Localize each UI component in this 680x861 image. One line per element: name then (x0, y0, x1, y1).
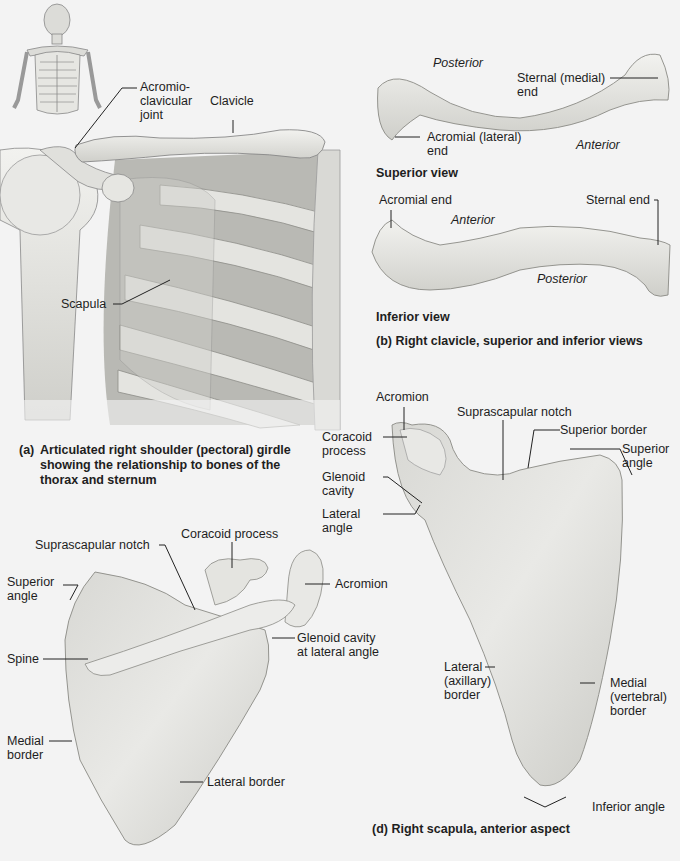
label-lateral-border-c: Lateral border (207, 775, 285, 789)
superior-view-title: Superior view (376, 166, 458, 180)
label-suprascapular-notch-c: Suprascapular notch (35, 538, 150, 552)
scapula-anterior-illustration (392, 423, 623, 786)
label-posterior-superior: Posterior (433, 56, 483, 70)
label-glenoid-cavity-d: Glenoid cavity (322, 470, 365, 498)
label-superior-border-d: Superior border (560, 423, 647, 437)
clavicle-inferior-view-illustration (372, 220, 670, 296)
caption-panel-d: (d) Right scapula, anterior aspect (372, 822, 570, 837)
label-sternal-medial-end: Sternal (medial) end (517, 71, 605, 99)
label-acromial-lateral-end: Acromial (lateral) end (427, 130, 521, 158)
label-clavicle: Clavicle (210, 94, 254, 108)
label-sternal-end: Sternal end (586, 193, 650, 207)
label-lateral-axillary-border-d: Lateral (axillary) border (444, 660, 491, 702)
label-medial-border-c: Medial border (7, 734, 44, 762)
label-coracoid-process-d: Coracoid process (322, 430, 372, 458)
scapula-posterior-illustration (65, 550, 323, 845)
label-lateral-angle-d: Lateral angle (322, 507, 360, 535)
label-spine-c: Spine (7, 652, 39, 666)
label-medial-vertebral-border-d: Medial (vertebral) border (610, 676, 667, 718)
label-acromion-c: Acromion (335, 577, 388, 591)
label-scapula: Scapula (61, 297, 106, 311)
caption-panel-b: (b) Right clavicle, superior and inferio… (376, 334, 643, 349)
caption-panel-a: Articulated right shoulder (pectoral) gi… (40, 443, 291, 488)
label-inferior-angle-d: Inferior angle (592, 800, 665, 814)
label-coracoid-process-c: Coracoid process (181, 527, 278, 541)
label-acromioclavicular-joint: Acromio- clavicular joint (140, 80, 192, 122)
inferior-view-title: Inferior view (376, 310, 450, 324)
label-acromion-d: Acromion (376, 390, 429, 404)
label-superior-angle-c: Superior angle (7, 575, 54, 603)
label-anterior-superior: Anterior (576, 138, 620, 152)
label-posterior-inferior: Posterior (537, 272, 587, 286)
label-superior-angle-d: Superior angle (622, 442, 669, 470)
caption-panel-a-letter: (a) (19, 443, 34, 458)
label-glenoid-cavity-c: Glenoid cavity at lateral angle (297, 631, 379, 659)
articulated-shoulder-illustration (0, 130, 340, 435)
skeleton-thumbnail-icon (14, 4, 100, 114)
label-suprascapular-notch-d: Suprascapular notch (457, 405, 572, 419)
label-acromial-end: Acromial end (379, 193, 452, 207)
label-anterior-inferior: Anterior (451, 213, 495, 227)
